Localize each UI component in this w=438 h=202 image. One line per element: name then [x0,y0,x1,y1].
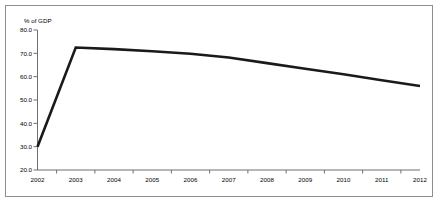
y-tick-label: 40.0 [20,120,33,127]
data-line-series [38,48,421,147]
y-tick-label: 30.0 [20,143,33,150]
y-tick-label: 50.0 [20,96,33,103]
x-tick-label: 2004 [107,176,121,183]
y-tick-label: 20.0 [20,166,33,173]
data-series-group [38,48,421,147]
x-tick-label: 2007 [222,176,236,183]
x-tick-label: 2006 [184,176,198,183]
x-tick-label: 2012 [413,176,427,183]
x-axis-tick-labels: 2002200320042005200620072008200920102011… [31,176,428,183]
x-tick-label: 2005 [145,176,159,183]
x-tick-label: 2003 [69,176,83,183]
line-chart: 20.030.040.050.060.070.080.0 20022003200… [0,0,438,202]
y-tick-label: 70.0 [20,50,33,57]
y-tick-label: 60.0 [20,73,33,80]
x-tick-label: 2009 [298,176,312,183]
chart-figure: 20.030.040.050.060.070.080.0 20022003200… [0,0,438,202]
x-axis: 2002200320042005200620072008200920102011… [31,170,428,183]
y-axis: 20.030.040.050.060.070.080.0 [20,26,38,173]
x-tick-label: 2011 [375,176,389,183]
x-tick-label: 2010 [337,176,351,183]
y-axis-ticks [34,30,38,170]
x-axis-ticks [57,170,401,174]
y-axis-tick-labels: 20.030.040.050.060.070.080.0 [20,26,33,173]
x-tick-label: 2002 [31,176,45,183]
y-tick-label: 80.0 [20,26,33,33]
x-tick-label: 2008 [260,176,274,183]
y-axis-label: % of GDP [24,17,52,24]
